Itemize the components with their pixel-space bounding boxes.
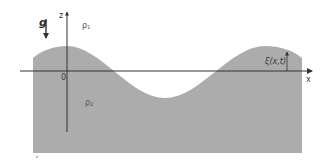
lower-density-subscript: 2 xyxy=(90,101,93,107)
diagram-canvas xyxy=(0,0,331,166)
upper-density-label: ρ1 xyxy=(82,22,90,30)
origin-label: 0 xyxy=(61,74,66,82)
displacement-label: ξ(x,t) xyxy=(265,58,286,66)
interface-wave-diagram: g z ρ1 0 ρ2 ξ(x,t) x xyxy=(0,0,331,166)
upper-density-subscript: 1 xyxy=(87,24,90,30)
gravity-label: g xyxy=(39,17,47,28)
z-axis-label: z xyxy=(59,12,63,20)
x-axis-label: x xyxy=(306,76,311,84)
lower-density-label: ρ2 xyxy=(85,99,93,107)
lower-fluid-region xyxy=(33,46,302,153)
